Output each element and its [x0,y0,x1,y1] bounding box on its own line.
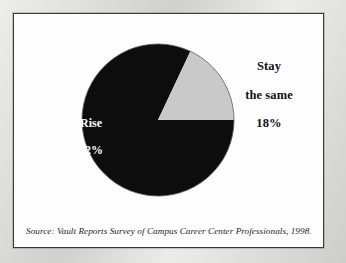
pie-chart-area: Stay the same 18% Rise 82% [14,14,323,211]
pie-label-stay-the-same: Stay the same 18% [219,45,319,145]
pie-label-rise: Rise 82% [58,103,124,171]
source-note: Source: Vault Reports Survey of Campus C… [26,226,311,237]
pie-label-rise-value: 82% [58,144,124,158]
pie-label-stay-line-1: Stay [219,59,319,73]
figure-panel: Stay the same 18% Rise 82% Source: Vault… [13,13,324,248]
pie-label-rise-line-1: Rise [58,117,124,131]
pie-label-stay-value: 18% [219,116,319,130]
pie-label-stay-line-2: the same [219,88,319,102]
